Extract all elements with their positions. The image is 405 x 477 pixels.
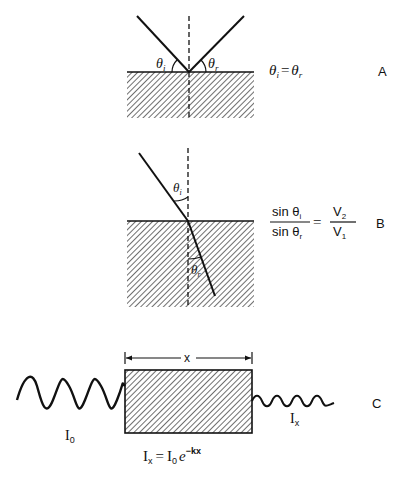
theta-i-label: θi [156,56,166,73]
wave-diagram: θi θr θi=θr A θi θr sin θi sin θr = V2 V… [0,0,405,477]
transmitted-wave [252,396,334,407]
eq-numerator: sin θi [272,204,301,221]
snell-law-equation: sin θi sin θr = V2 V1 [270,204,356,241]
input-intensity-label: I0 [65,428,75,445]
theta-r-label: θr [208,56,219,73]
eq-v1: V1 [333,224,347,241]
angle-arc-reflected [201,60,206,72]
panel-label-a: A [378,64,387,79]
incident-ray [139,153,188,221]
panel-label-b: B [376,216,385,231]
angle-arc-incident [174,197,188,201]
eq-equals: = [313,214,321,230]
attenuation-equation: Ix=I0e−kx [143,446,201,466]
eq-denominator: sin θr [272,224,302,241]
panel-c-attenuation: x I0 Ix Ix=I0e−kx C [17,351,381,466]
panel-b-refraction: θi θr sin θi sin θr = V2 V1 B [127,148,385,307]
theta-i-label: θi [173,180,182,197]
output-intensity-label: Ix [290,411,300,428]
angle-arc-incident [172,60,177,72]
panel-a-reflection: θi θr θi=θr A [127,16,387,118]
panel-label-c: C [372,396,381,411]
eq-v2: V2 [333,204,347,221]
reflection-equation: θi=θr [269,62,303,80]
absorbing-medium [125,370,252,433]
thickness-label: x [184,351,190,365]
incident-wave [17,377,125,409]
medium-hatch [127,72,254,118]
